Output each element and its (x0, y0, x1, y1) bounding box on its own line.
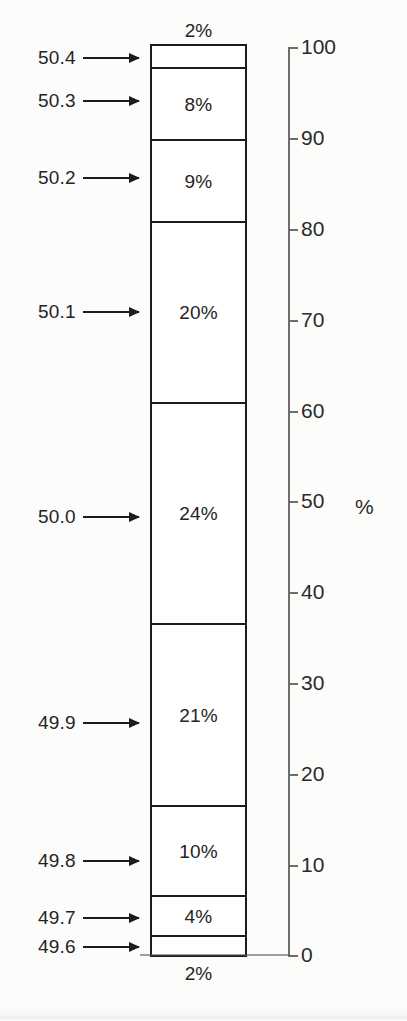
category-annotation: 49.9 (38, 710, 139, 736)
category-annotation: 50.4 (38, 45, 139, 71)
axis-tick-label: 70 (301, 309, 324, 330)
category-annotation: 49.8 (38, 848, 139, 874)
category-annotation-label: 49.6 (38, 936, 76, 958)
axis-unit-label: % (355, 496, 374, 517)
axis-tick-label: 80 (301, 218, 324, 239)
axis-tick-mark (288, 411, 298, 413)
bar-segment: 10% (150, 805, 247, 897)
annotation-arrow-icon (83, 917, 139, 919)
category-annotation-label: 50.1 (38, 301, 76, 323)
annotation-arrow-icon (83, 57, 139, 59)
axis-tick-mark (288, 229, 298, 231)
category-annotation: 49.7 (38, 905, 139, 931)
category-annotation-label: 50.3 (38, 90, 76, 112)
category-annotation-label: 50.0 (38, 506, 76, 528)
axis-tick-mark (288, 683, 298, 685)
annotation-arrow-icon (83, 311, 139, 313)
bar-segment: 4% (150, 895, 247, 937)
axis-tick-label: 100 (301, 36, 336, 57)
axis-tick-mark (288, 138, 298, 140)
category-annotation-label: 50.4 (38, 47, 76, 69)
annotation-arrow-icon (83, 946, 139, 948)
axis-tick-label: 20 (301, 763, 324, 784)
axis-tick-mark (288, 320, 298, 322)
axis-tick-label: 60 (301, 400, 324, 421)
axis-baseline-stub (140, 954, 290, 956)
bar-segment-value: 20% (179, 303, 218, 322)
paper-edge (0, 1007, 407, 1021)
axis-tick-label: 90 (301, 127, 324, 148)
bar-segment-value: 21% (179, 706, 218, 725)
category-annotation-label: 49.9 (38, 712, 76, 734)
axis-tick-label: 50 (301, 490, 324, 511)
category-annotation-label: 49.7 (38, 907, 76, 929)
figure-canvas: 8%9%20%24%21%10%4% 2%2% 50.450.350.250.1… (0, 0, 407, 1021)
bar-segment-value: 4% (185, 907, 213, 926)
bar-segment-value: 10% (179, 842, 218, 861)
annotation-arrow-icon (83, 177, 139, 179)
bar-segment: 21% (150, 623, 247, 807)
axis-tick-mark (288, 955, 298, 957)
bar-outside-value-top: 2% (150, 20, 247, 42)
category-annotation: 50.0 (38, 504, 139, 530)
axis-tick-label: 30 (301, 672, 324, 693)
stacked-bar: 8%9%20%24%21%10%4% (150, 44, 247, 955)
category-annotation: 50.2 (38, 165, 139, 191)
bar-segment: 9% (150, 139, 247, 223)
bar-outside-value-bottom: 2% (150, 963, 247, 985)
category-annotation-label: 50.2 (38, 167, 76, 189)
axis-tick-label: 0 (301, 944, 313, 965)
axis-tick-mark (288, 592, 298, 594)
annotation-arrow-icon (83, 516, 139, 518)
bar-segment-value: 9% (185, 172, 213, 191)
annotation-arrow-icon (83, 860, 139, 862)
axis-tick-mark (288, 501, 298, 503)
bar-segment: 20% (150, 221, 247, 404)
bar-segment (150, 44, 247, 69)
annotation-arrow-icon (83, 722, 139, 724)
category-annotation: 50.1 (38, 299, 139, 325)
bar-segment-value: 8% (185, 95, 213, 114)
axis-tick-label: 40 (301, 581, 324, 602)
category-annotation: 50.3 (38, 88, 139, 114)
category-annotation: 49.6 (38, 934, 139, 960)
axis-tick-mark (288, 774, 298, 776)
bar-segment-value: 24% (179, 504, 218, 523)
category-annotation-label: 49.8 (38, 850, 76, 872)
axis-tick-mark (288, 47, 298, 49)
bar-segment: 8% (150, 67, 247, 141)
annotation-arrow-icon (83, 100, 139, 102)
axis-tick-mark (288, 865, 298, 867)
axis-tick-label: 10 (301, 854, 324, 875)
bar-segment: 24% (150, 402, 247, 625)
